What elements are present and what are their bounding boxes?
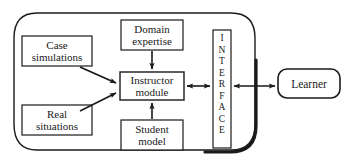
node-box-student-model[interactable]	[121, 120, 183, 150]
edge-case-simulations-to-instructor-module	[80, 67, 116, 83]
node-box-learner[interactable]	[278, 69, 340, 98]
node-box-domain-expertise[interactable]	[121, 20, 183, 50]
node-box-case-simulations[interactable]	[22, 36, 92, 66]
diagram-canvas: Case simulations Real situations Domain …	[0, 0, 355, 165]
node-box-instructor-module[interactable]	[120, 72, 184, 100]
diagram-graphics	[0, 0, 355, 165]
node-box-interface[interactable]	[213, 30, 231, 148]
edge-real-situations-to-instructor-module	[80, 93, 116, 111]
